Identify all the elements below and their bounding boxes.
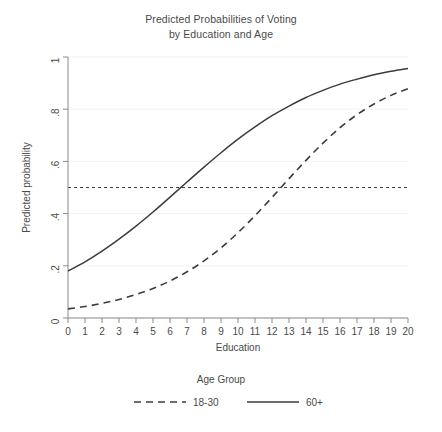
x-tick-label-11: 11 xyxy=(250,326,261,337)
x-tick-label-3: 3 xyxy=(116,326,122,337)
y-tick-label-2: .4 xyxy=(50,212,61,221)
series-group xyxy=(68,68,408,308)
x-tick-label-7: 7 xyxy=(184,326,190,337)
y-ticks-group: 0.2.4.6.81 xyxy=(50,57,68,324)
x-tick-label-20: 20 xyxy=(402,326,414,337)
legend-title: Age Group xyxy=(197,374,246,385)
x-tick-label-1: 1 xyxy=(82,326,88,337)
series-line-18-30 xyxy=(68,89,408,309)
y-tick-label-0: 0 xyxy=(50,318,61,324)
chart-svg: 0.2.4.6.81 01234567891011121314151617181… xyxy=(0,0,442,432)
y-tick-label-3: .6 xyxy=(50,160,61,169)
x-ticks-group: 01234567891011121314151617181920 xyxy=(65,318,414,337)
x-tick-label-13: 13 xyxy=(283,326,295,337)
legend: Age Group18-3060+ xyxy=(134,374,323,408)
y-tick-label-1: .2 xyxy=(50,265,61,274)
x-tick-label-10: 10 xyxy=(232,326,244,337)
x-tick-label-8: 8 xyxy=(201,326,207,337)
x-tick-label-4: 4 xyxy=(133,326,139,337)
x-tick-label-18: 18 xyxy=(368,326,380,337)
x-tick-label-12: 12 xyxy=(266,326,278,337)
x-tick-label-14: 14 xyxy=(300,326,312,337)
y-tick-label-5: 1 xyxy=(50,57,61,63)
plot-area: 0.2.4.6.81 01234567891011121314151617181… xyxy=(0,0,442,432)
legend-label-18-30: 18-30 xyxy=(193,397,219,408)
x-tick-label-0: 0 xyxy=(65,326,71,337)
x-tick-label-2: 2 xyxy=(99,326,105,337)
x-tick-label-17: 17 xyxy=(351,326,363,337)
y-tick-label-4: .8 xyxy=(50,108,61,117)
x-tick-label-15: 15 xyxy=(317,326,329,337)
x-axis-title: Education xyxy=(216,342,260,353)
x-tick-label-9: 9 xyxy=(218,326,224,337)
x-tick-label-16: 16 xyxy=(334,326,346,337)
chart-figure: Predicted Probabilities of Voting by Edu… xyxy=(0,0,442,432)
y-axis-title: Predicted probability xyxy=(21,142,32,233)
x-tick-label-6: 6 xyxy=(167,326,173,337)
x-tick-label-5: 5 xyxy=(150,326,156,337)
legend-label-60-plus: 60+ xyxy=(306,397,323,408)
x-tick-label-19: 19 xyxy=(385,326,397,337)
series-line-60- xyxy=(68,68,408,271)
